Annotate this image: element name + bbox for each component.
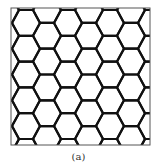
hexagon-cell	[0, 100, 19, 126]
hexagon-cell	[0, 75, 19, 101]
hexagon-cell	[54, 165, 82, 168]
hexagon-cell	[96, 165, 124, 168]
hexagon-cell	[0, 126, 19, 152]
hexagon-cell	[138, 62, 157, 88]
hexagon-cell	[0, 23, 19, 49]
figure-caption: (a)	[0, 151, 157, 162]
hexagon-cell	[138, 113, 157, 139]
hexagon-cell	[138, 10, 157, 36]
hexagon-cell	[138, 165, 157, 168]
hexagon-cell	[0, 0, 19, 23]
hexagon-cell	[138, 87, 157, 113]
hexagon-cell	[0, 49, 19, 75]
hexagon-cell	[138, 36, 157, 62]
hexagon-grid	[0, 0, 157, 168]
hexagon-cell	[12, 165, 40, 168]
honeycomb-lattice-diagram	[0, 0, 157, 168]
